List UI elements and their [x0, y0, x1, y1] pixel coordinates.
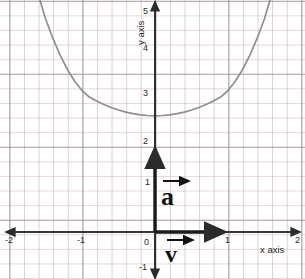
- x-axis-title: x axis: [260, 245, 284, 254]
- origin-label: 0: [144, 238, 149, 247]
- y-axis-title: y axis: [136, 21, 145, 45]
- y-tick-label-5: 5: [143, 7, 148, 16]
- y-tick-label-2: 2: [143, 137, 148, 146]
- vector-a-label: a: [161, 184, 174, 210]
- x-tick-label--1: -1: [77, 236, 85, 245]
- x-tick-label--2: -2: [5, 236, 13, 245]
- x-tick-label-2: 2: [295, 236, 300, 245]
- y-tick-label-1: 1: [145, 178, 150, 187]
- graph-figure: -2 -1 0 1 2 5 4 3 2 1 -1 x axis y axis a…: [0, 0, 305, 279]
- y-tick-label-4: 4: [143, 44, 148, 53]
- y-tick-label--1: -1: [139, 263, 147, 272]
- x-tick-label-1: 1: [225, 236, 230, 245]
- y-tick-label-3: 3: [143, 89, 148, 98]
- plot-canvas: [0, 0, 305, 279]
- vector-v-label: v: [165, 242, 177, 266]
